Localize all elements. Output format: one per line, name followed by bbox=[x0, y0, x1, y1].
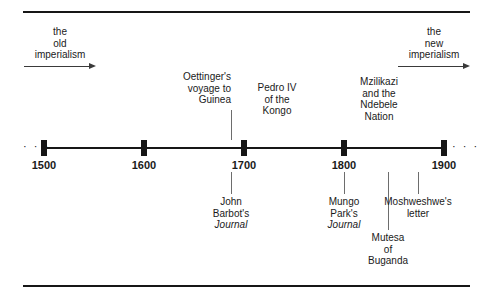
annotation-line: Barbot's bbox=[195, 208, 267, 220]
annotation-line: of bbox=[352, 244, 424, 256]
timeline-figure: the old imperialism the new imperialism … bbox=[0, 0, 494, 300]
annotation-line: Kongo bbox=[241, 105, 313, 117]
annotation-line: letter bbox=[378, 208, 458, 220]
annotation-line: Nation bbox=[341, 111, 417, 123]
top-rule bbox=[23, 11, 470, 13]
annotation-line: Guinea bbox=[151, 94, 231, 106]
annotation-line: Moshweshwe's bbox=[378, 196, 458, 208]
year-label-1800: 1800 bbox=[314, 159, 374, 171]
annotation-line: Journal bbox=[195, 219, 267, 231]
year-label-1600: 1600 bbox=[114, 159, 174, 171]
year-label-1700: 1700 bbox=[214, 159, 274, 171]
annotation-line: Mzilikazi bbox=[341, 76, 417, 88]
axis-tick-1900 bbox=[441, 140, 447, 156]
year-label-1500: 1500 bbox=[14, 159, 74, 171]
annotation-line: Pedro IV bbox=[241, 82, 313, 94]
annotation-mzilikazi-and-the-ndebele-nation: Mzilikazi and the Ndebele Nation bbox=[341, 76, 417, 122]
era-old-line-2: old bbox=[16, 38, 104, 50]
era-old-line-1: the bbox=[16, 26, 104, 38]
era-caption-old-imperialism: the old imperialism bbox=[16, 26, 104, 61]
annotation-line: of the bbox=[241, 94, 313, 106]
annotation-line: Ndebele bbox=[341, 99, 417, 111]
annotation-oettingers-voyage-to-guinea: Oettinger's voyage to Guinea bbox=[151, 71, 231, 106]
leader-line-mungo-parks-journal bbox=[344, 172, 345, 194]
era-new-line-1: the bbox=[390, 26, 478, 38]
annotation-mutesa-of-buganda: Mutesa of Buganda bbox=[352, 232, 424, 267]
year-label-1900: 1900 bbox=[414, 159, 474, 171]
era-new-line-3: imperialism bbox=[390, 49, 478, 61]
leader-line-moshweshwes-letter bbox=[418, 172, 419, 194]
axis-tick-1500 bbox=[41, 140, 47, 156]
annotation-line: Park's bbox=[308, 208, 380, 220]
axis-continuation-dots-right: · · · bbox=[452, 141, 479, 152]
leader-line-oettingers-voyage bbox=[231, 110, 232, 140]
annotation-john-barbots-journal: John Barbot's Journal bbox=[195, 196, 267, 231]
annotation-line: Mungo bbox=[308, 196, 380, 208]
axis-tick-1600 bbox=[141, 140, 147, 156]
annotation-mungo-parks-journal: Mungo Park's Journal bbox=[308, 196, 380, 231]
bottom-rule bbox=[23, 285, 470, 287]
annotation-line: and the bbox=[341, 88, 417, 100]
annotation-line: Mutesa bbox=[352, 232, 424, 244]
annotation-line: Journal bbox=[308, 219, 380, 231]
annotation-pedro-iv-of-the-kongo: Pedro IV of the Kongo bbox=[241, 82, 313, 117]
era-old-line-3: imperialism bbox=[16, 49, 104, 61]
era-caption-new-imperialism: the new imperialism bbox=[390, 26, 478, 61]
axis-tick-1800 bbox=[341, 140, 347, 156]
annotation-line: voyage to bbox=[151, 83, 231, 95]
annotation-moshweshwes-letter: Moshweshwe's letter bbox=[378, 196, 458, 219]
annotation-line: Oettinger's bbox=[151, 71, 231, 83]
annotation-line: John bbox=[195, 196, 267, 208]
era-new-line-2: new bbox=[390, 38, 478, 50]
axis-tick-1700 bbox=[241, 140, 247, 156]
arrow-right-icon-new-imperialism bbox=[398, 63, 470, 70]
leader-line-john-barbots-journal bbox=[231, 172, 232, 194]
arrow-right-icon-old-imperialism bbox=[24, 63, 96, 70]
annotation-line: Buganda bbox=[352, 255, 424, 267]
